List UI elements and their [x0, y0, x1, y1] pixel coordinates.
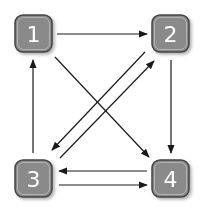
- graph-diagram: 1 2 3 4: [0, 0, 204, 214]
- edges: [33, 34, 171, 185]
- node-2-label: 2: [164, 22, 178, 47]
- node-1[interactable]: 1: [15, 15, 52, 52]
- node-4[interactable]: 4: [152, 160, 189, 197]
- node-3[interactable]: 3: [15, 160, 52, 197]
- node-2[interactable]: 2: [152, 15, 189, 52]
- node-3-label: 3: [27, 167, 41, 192]
- edge-2-to-3: [52, 52, 145, 150]
- node-1-label: 1: [27, 22, 41, 47]
- edge-1-to-4: [55, 57, 149, 157]
- node-4-label: 4: [164, 167, 178, 192]
- edge-3-to-2: [60, 61, 154, 158]
